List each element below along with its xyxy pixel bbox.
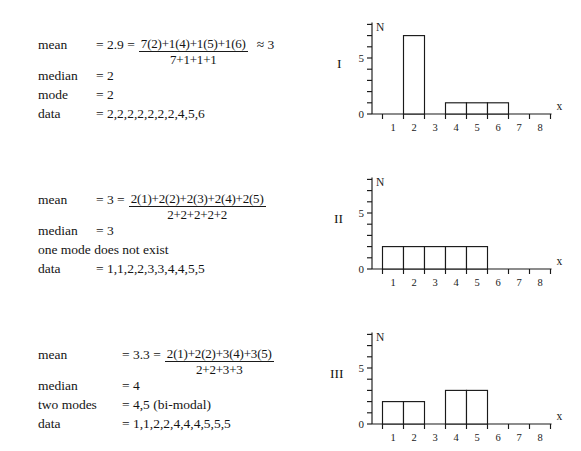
- data-row: data = 1,1,2,2,4,4,4,5,5,5: [38, 417, 231, 431]
- data-value: = 2,2,2,2,2,2,2,4,5,6: [96, 107, 205, 121]
- mode-row: mode = 2: [38, 88, 114, 102]
- histogram-bar: [383, 402, 404, 424]
- mean-row: mean = 2.9 = 7(2)+1(4)+1(5)+1(6) 7+1+1+1…: [38, 38, 274, 67]
- x-tick-label: 5: [474, 122, 479, 133]
- y-axis-label: N: [376, 331, 385, 343]
- histogram-bar: [425, 247, 446, 269]
- x-tick-label: 3: [432, 432, 437, 443]
- median-row: median = 4: [38, 379, 140, 393]
- y-axis-label: N: [376, 176, 385, 188]
- stat-block-3: mean = 3.3 = 2(1)+2(2)+3(4)+3(5) 2+2+3+3…: [38, 334, 358, 434]
- x-tick-label: 2: [411, 277, 416, 288]
- mean-value: = 3 =: [96, 193, 129, 207]
- worksheet-page: mean = 2.9 = 7(2)+1(4)+1(5)+1(6) 7+1+1+1…: [0, 0, 581, 451]
- stat-block-1: mean = 2.9 = 7(2)+1(4)+1(5)+1(6) 7+1+1+1…: [38, 24, 338, 124]
- median-label: median: [38, 69, 96, 83]
- x-tick-label: 8: [537, 432, 542, 443]
- median-row: median = 2: [38, 69, 114, 83]
- mean-denominator: 2+2+3+3: [165, 362, 274, 376]
- mean-value: = 2.9 =: [96, 38, 139, 52]
- histogram-bar: [446, 390, 467, 424]
- mean-fraction: 2(1)+2(2)+2(3)+2(4)+2(5) 2+2+2+2+2: [129, 192, 266, 221]
- x-tick-label: 4: [453, 432, 459, 443]
- y-tick-label: 5: [359, 52, 365, 64]
- histogram-bar: [467, 247, 488, 269]
- histogram-bar: [446, 247, 467, 269]
- histogram-bar: [467, 103, 488, 114]
- x-tick-label: 3: [432, 277, 437, 288]
- histogram-bar: [383, 247, 404, 269]
- data-row: data = 1,1,2,2,3,3,4,4,5,5: [38, 262, 205, 276]
- x-tick-label: 2: [411, 122, 416, 133]
- y-axis-label: N: [376, 21, 385, 33]
- mean-label: mean: [38, 38, 96, 52]
- x-tick-label: 7: [516, 432, 521, 443]
- mode-label: mode: [38, 88, 96, 102]
- mode-value: = 4,5 (bi-modal): [122, 398, 211, 412]
- mean-value: = 3.3 =: [122, 348, 165, 362]
- x-axis-label: x: [557, 100, 563, 112]
- histogram-I: 05Nx12345678: [350, 8, 575, 143]
- histogram-bar: [467, 390, 488, 424]
- histogram-III-svg: 05Nx12345678: [350, 318, 575, 451]
- y-tick-label: 0: [359, 108, 365, 120]
- mean-fraction: 7(2)+1(4)+1(5)+1(6) 7+1+1+1: [139, 37, 248, 66]
- y-tick-label: 0: [359, 263, 365, 275]
- x-tick-label: 8: [537, 122, 542, 133]
- histogram-I-svg: 05Nx12345678: [350, 8, 575, 143]
- data-label: data: [38, 417, 122, 431]
- mean-row: mean = 3 = 2(1)+2(2)+2(3)+2(4)+2(5) 2+2+…: [38, 193, 275, 222]
- x-tick-label: 7: [516, 122, 521, 133]
- mean-numerator: 7(2)+1(4)+1(5)+1(6): [139, 37, 248, 52]
- histogram-bar: [404, 36, 425, 114]
- y-tick-label: 5: [359, 207, 365, 219]
- histogram-II-svg: 05Nx12345678: [350, 163, 575, 298]
- mode-row: one mode does not exist: [38, 243, 168, 257]
- data-value: = 1,1,2,2,3,3,4,4,5,5: [96, 262, 205, 276]
- mean-approximation: ≈ 3: [248, 38, 275, 52]
- histogram-II: 05Nx12345678: [350, 163, 575, 298]
- median-value: = 2: [96, 69, 114, 83]
- x-tick-label: 6: [495, 432, 500, 443]
- x-tick-label: 4: [453, 122, 459, 133]
- median-row: median = 3: [38, 224, 114, 238]
- histogram-bar: [446, 103, 467, 114]
- data-row: data = 2,2,2,2,2,2,2,4,5,6: [38, 107, 205, 121]
- mean-label: mean: [38, 348, 122, 362]
- histogram-bar: [404, 402, 425, 424]
- mode-value: = 2: [96, 88, 114, 102]
- chart-label-II: II: [334, 211, 343, 227]
- median-label: median: [38, 379, 122, 393]
- x-tick-label: 3: [432, 122, 437, 133]
- median-value: = 3: [96, 224, 114, 238]
- stat-block-2: mean = 3 = 2(1)+2(2)+2(3)+2(4)+2(5) 2+2+…: [38, 179, 358, 279]
- data-label: data: [38, 262, 96, 276]
- mean-fraction: 2(1)+2(2)+3(4)+3(5) 2+2+3+3: [165, 347, 274, 376]
- mode-label: one mode does not exist: [38, 243, 168, 257]
- x-tick-label: 2: [411, 432, 416, 443]
- x-tick-label: 1: [390, 277, 395, 288]
- x-tick-label: 4: [453, 277, 459, 288]
- median-value: = 4: [122, 379, 140, 393]
- histogram-III: 05Nx12345678: [350, 318, 575, 451]
- y-tick-label: 0: [359, 418, 365, 430]
- x-tick-label: 1: [390, 432, 395, 443]
- data-label: data: [38, 107, 96, 121]
- mean-row: mean = 3.3 = 2(1)+2(2)+3(4)+3(5) 2+2+3+3: [38, 348, 283, 377]
- median-label: median: [38, 224, 96, 238]
- x-axis-label: x: [557, 255, 563, 267]
- x-tick-label: 8: [537, 277, 542, 288]
- mean-denominator: 2+2+2+2+2: [129, 207, 266, 221]
- mean-label: mean: [38, 193, 96, 207]
- x-tick-label: 5: [474, 432, 479, 443]
- mean-numerator: 2(1)+2(2)+3(4)+3(5): [165, 347, 274, 362]
- mode-label: two modes: [38, 398, 122, 412]
- chart-label-III: III: [330, 366, 344, 382]
- histogram-bar: [404, 247, 425, 269]
- histogram-bar: [488, 103, 509, 114]
- y-tick-label: 5: [359, 362, 365, 374]
- x-tick-label: 6: [495, 277, 500, 288]
- x-tick-label: 5: [474, 277, 479, 288]
- mode-row: two modes = 4,5 (bi-modal): [38, 398, 211, 412]
- chart-label-I: I: [337, 56, 342, 72]
